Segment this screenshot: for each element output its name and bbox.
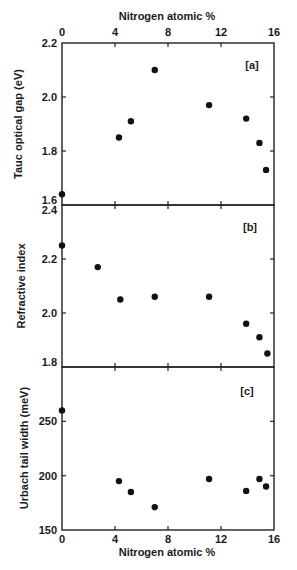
figure: Nitrogen atomic % 0481216 [a] Tauc optic…	[0, 0, 297, 570]
top-x-tick-labels: 0481216	[59, 26, 280, 38]
data-point	[59, 191, 65, 197]
data-point	[256, 334, 262, 340]
data-point	[243, 488, 249, 494]
data-point	[117, 296, 123, 302]
panel-a-y-axis-title: Tauc optical gap (eV)	[12, 69, 24, 179]
data-point	[116, 478, 122, 484]
panel-c-y-axis-title: Urbach tail width (meV)	[18, 387, 30, 510]
bottom-x-tick-label: 4	[112, 533, 119, 545]
y-tick-label: 150	[39, 524, 57, 536]
data-point	[59, 242, 65, 248]
data-point	[152, 504, 158, 510]
panel-c-urbach-width: [c] Urbach tail width (meV) 150200250	[18, 367, 274, 536]
data-point	[128, 118, 134, 124]
data-point	[116, 134, 122, 140]
top-x-tick-label: 0	[59, 26, 65, 38]
bottom-x-tick-label: 0	[59, 533, 65, 545]
data-point	[243, 321, 249, 327]
data-point	[243, 115, 249, 121]
data-point	[256, 140, 262, 146]
data-point	[152, 294, 158, 300]
panel-a-tauc-gap: [a] Tauc optical gap (eV) 1.61.82.02.2	[12, 37, 274, 206]
panel-a-label: [a]	[245, 59, 259, 71]
data-point	[128, 489, 134, 495]
data-point	[95, 264, 101, 270]
bottom-x-axis-title: Nitrogen atomic %	[119, 546, 216, 558]
panel-b-label: [b]	[243, 221, 257, 233]
bottom-x-tick-label: 12	[215, 533, 227, 545]
top-x-tick-label: 4	[112, 26, 119, 38]
top-x-tick-label: 16	[268, 26, 280, 38]
top-x-axis-title: Nitrogen atomic %	[119, 10, 216, 22]
panel-b-y-axis-title: Refractive index	[15, 243, 27, 329]
y-tick-label: 2.2	[42, 37, 57, 49]
y-tick-label: 1.8	[42, 145, 57, 157]
y-tick-label: 2.4	[42, 204, 58, 216]
panel-b-refractive-index: [b] Refractive index 1.82.02.22.4	[15, 204, 274, 368]
plot-frame	[62, 43, 274, 205]
stacked-scatter-figure: Nitrogen atomic % 0481216 [a] Tauc optic…	[0, 0, 297, 570]
data-point	[206, 102, 212, 108]
top-x-tick-label: 8	[165, 26, 171, 38]
data-point	[256, 476, 262, 482]
y-tick-label: 200	[39, 470, 57, 482]
bottom-x-tick-label: 8	[165, 533, 171, 545]
top-x-tick-label: 12	[215, 26, 227, 38]
data-point	[152, 67, 158, 73]
y-tick-label: 2.2	[42, 253, 57, 265]
data-point	[263, 167, 269, 173]
y-tick-label: 2.0	[42, 307, 57, 319]
data-point	[59, 407, 65, 413]
data-point	[206, 294, 212, 300]
y-tick-label: 1.8	[42, 356, 57, 368]
panel-c-label: [c]	[240, 385, 254, 397]
bottom-x-tick-labels: 0481216	[59, 533, 280, 545]
data-point	[263, 483, 269, 489]
data-point	[206, 476, 212, 482]
bottom-x-tick-label: 16	[268, 533, 280, 545]
y-tick-label: 2.0	[42, 91, 57, 103]
data-point	[264, 350, 270, 356]
y-tick-label: 250	[39, 415, 57, 427]
